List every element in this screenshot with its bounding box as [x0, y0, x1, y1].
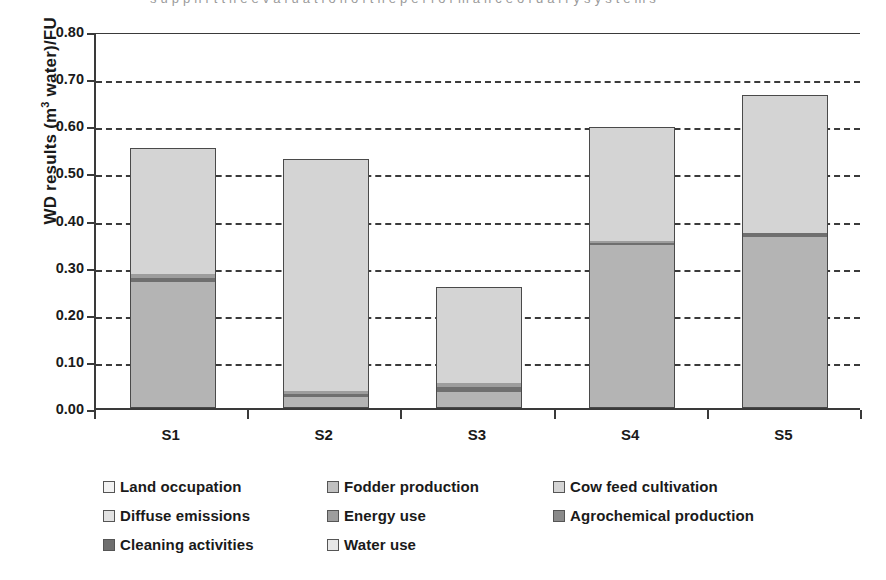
- x-axis-tick-mark: [554, 410, 556, 419]
- legend-item[interactable]: Diffuse emissions: [103, 507, 327, 524]
- y-axis-tick-mark: [87, 316, 94, 318]
- bar-segment[interactable]: [436, 383, 522, 387]
- legend-swatch-icon: [553, 481, 565, 493]
- legend-item[interactable]: Cleaning activities: [103, 536, 327, 553]
- y-axis-tick-label: 0.70: [32, 71, 84, 87]
- bar-segment[interactable]: [589, 127, 675, 241]
- bar-s4[interactable]: [589, 127, 675, 408]
- legend-label: Fodder production: [344, 478, 479, 495]
- chart-figure: WD results (m3 water)/FU 0.800.700.600.5…: [0, 0, 886, 580]
- bar-segment[interactable]: [130, 282, 216, 408]
- chart-legend: Land occupationFodder productionCow feed…: [103, 472, 873, 559]
- y-axis-tick-label: 0.80: [32, 24, 84, 40]
- legend-label: Water use: [344, 536, 416, 553]
- bar-segment[interactable]: [283, 391, 369, 394]
- legend-label: Land occupation: [120, 478, 242, 495]
- bar-segment[interactable]: [742, 237, 828, 408]
- bar-segment[interactable]: [436, 392, 522, 408]
- legend-item[interactable]: Cow feed cultivation: [553, 478, 718, 495]
- x-axis-label-s3: S3: [400, 426, 553, 443]
- x-axis-label-s4: S4: [554, 426, 707, 443]
- y-axis-tick-mark: [87, 127, 94, 129]
- bar-segment[interactable]: [436, 287, 522, 383]
- bar-segment[interactable]: [130, 278, 216, 282]
- bar-s5[interactable]: [742, 95, 828, 408]
- legend-swatch-icon: [103, 539, 115, 551]
- y-axis-title-superscript: 3: [39, 101, 51, 107]
- y-axis-tick-label: 0.30: [32, 260, 84, 276]
- bar-s1[interactable]: [130, 148, 216, 408]
- plot-area: [94, 33, 860, 410]
- bar-s3[interactable]: [436, 287, 522, 408]
- bar-segment[interactable]: [589, 245, 675, 408]
- y-axis-tick-mark: [87, 410, 94, 412]
- legend-label: Diffuse emissions: [120, 507, 250, 524]
- legend-swatch-icon: [327, 481, 339, 493]
- bar-segment[interactable]: [283, 397, 369, 408]
- bar-segment[interactable]: [283, 394, 369, 397]
- legend-swatch-icon: [327, 510, 339, 522]
- x-axis-tick-mark: [860, 410, 862, 419]
- legend-item[interactable]: Water use: [327, 536, 553, 553]
- legend-row: Cleaning activitiesWater use: [103, 530, 873, 559]
- legend-swatch-icon: [103, 510, 115, 522]
- y-axis-tick-mark: [87, 222, 94, 224]
- x-axis-tick-mark: [707, 410, 709, 419]
- bar-s2[interactable]: [283, 159, 369, 408]
- y-axis-tick-label: 0.00: [32, 401, 84, 417]
- y-axis-tick-mark: [87, 33, 94, 35]
- y-axis-tick-label: 0.10: [32, 354, 84, 370]
- bar-segment[interactable]: [589, 243, 675, 245]
- y-axis-tick-label: 0.50: [32, 165, 84, 181]
- y-axis-tick-label: 0.40: [32, 213, 84, 229]
- y-axis-tick-mark: [87, 80, 94, 82]
- legend-label: Energy use: [344, 507, 426, 524]
- x-axis-tick-mark: [400, 410, 402, 419]
- x-axis-label-s5: S5: [707, 426, 860, 443]
- x-axis-label-s2: S2: [247, 426, 400, 443]
- legend-row: Land occupationFodder productionCow feed…: [103, 472, 873, 501]
- bar-segment[interactable]: [283, 159, 369, 390]
- bar-segment[interactable]: [130, 148, 216, 273]
- bar-segment[interactable]: [130, 274, 216, 278]
- legend-label: Cow feed cultivation: [570, 478, 718, 495]
- bar-segment[interactable]: [436, 387, 522, 391]
- y-axis-tick-mark: [87, 363, 94, 365]
- bar-segment[interactable]: [742, 95, 828, 233]
- bar-segment[interactable]: [589, 241, 675, 243]
- y-axis-tick-mark: [87, 174, 94, 176]
- x-axis-label-s1: S1: [94, 426, 247, 443]
- legend-swatch-icon: [103, 481, 115, 493]
- legend-item[interactable]: Energy use: [327, 507, 553, 524]
- legend-item[interactable]: Land occupation: [103, 478, 327, 495]
- legend-label: Agrochemical production: [570, 507, 754, 524]
- gridline: [96, 81, 860, 83]
- y-axis-tick-mark: [87, 269, 94, 271]
- x-axis-tick-mark: [94, 410, 96, 419]
- legend-label: Cleaning activities: [120, 536, 254, 553]
- y-axis-tick-label: 0.60: [32, 118, 84, 134]
- legend-item[interactable]: Agrochemical production: [553, 507, 754, 524]
- bar-segment[interactable]: [742, 233, 828, 237]
- y-axis-tick-label: 0.20: [32, 307, 84, 323]
- legend-row: Diffuse emissionsEnergy useAgrochemical …: [103, 501, 873, 530]
- legend-swatch-icon: [327, 539, 339, 551]
- legend-swatch-icon: [553, 510, 565, 522]
- legend-item[interactable]: Fodder production: [327, 478, 553, 495]
- x-axis-tick-mark: [247, 410, 249, 419]
